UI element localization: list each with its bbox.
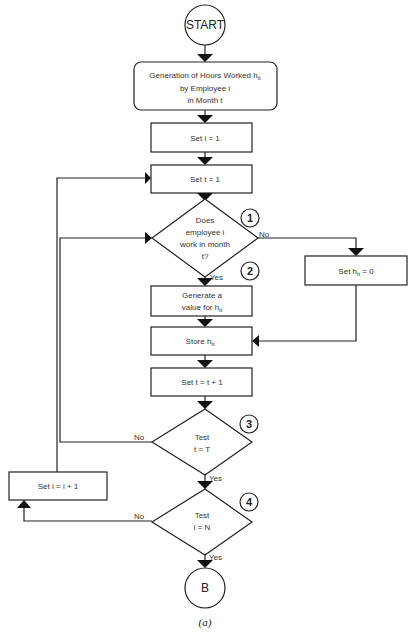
step-4-badge: 4 bbox=[240, 493, 258, 511]
set-t-box: Set t = 1 bbox=[151, 165, 252, 193]
svg-text:employee i: employee i bbox=[186, 228, 225, 237]
arrow-down-icon bbox=[197, 360, 213, 368]
arrow-down-icon bbox=[197, 560, 213, 568]
arrow-down-icon bbox=[197, 481, 213, 489]
figure-caption: (a) bbox=[199, 616, 212, 629]
generate-value-box: Generate a value for hit bbox=[151, 286, 252, 316]
svg-text:4: 4 bbox=[246, 496, 253, 508]
no-branch-line bbox=[258, 238, 356, 252]
no-label: No bbox=[134, 433, 145, 442]
loop-i-line bbox=[57, 178, 147, 490]
arrow-down-icon bbox=[197, 278, 213, 286]
loop-t-line bbox=[60, 238, 152, 442]
svg-text:B: B bbox=[201, 581, 209, 595]
end-connector-b: B bbox=[185, 568, 225, 608]
increment-t-box: Set t = t + 1 bbox=[151, 368, 252, 396]
svg-text:3: 3 bbox=[246, 418, 252, 430]
start-node: START bbox=[185, 5, 225, 45]
generation-line1: Generation of Hours Worked h bbox=[149, 71, 257, 80]
arrow-down-icon bbox=[197, 54, 213, 62]
svg-text:Set i = i + 1: Set i = i + 1 bbox=[38, 482, 79, 491]
arrow-up-icon bbox=[17, 500, 31, 508]
step-1-badge: 1 bbox=[241, 209, 259, 227]
arrow-down-icon bbox=[197, 319, 213, 327]
arrow-down-icon bbox=[348, 248, 364, 256]
decision-i-equals-N: Test i = N bbox=[152, 489, 252, 555]
merge-line bbox=[257, 285, 356, 341]
yes-label: Yes bbox=[210, 273, 223, 282]
svg-text:Set hit = 0: Set hit = 0 bbox=[338, 267, 374, 277]
store-h-box: Store hit bbox=[151, 327, 252, 355]
svg-text:t?: t? bbox=[202, 252, 209, 261]
step-3-badge: 3 bbox=[240, 415, 258, 433]
svg-text:Set i = 1: Set i = 1 bbox=[190, 134, 220, 143]
arrow-down-icon bbox=[197, 115, 213, 123]
flowchart: START Generation of Hours Worked hit by … bbox=[0, 0, 416, 637]
svg-text:t = T: t = T bbox=[194, 445, 210, 454]
no-branch-line bbox=[24, 505, 152, 521]
svg-text:Store hit: Store hit bbox=[186, 337, 215, 347]
arrow-right-icon bbox=[145, 172, 151, 184]
svg-text:Test: Test bbox=[195, 433, 210, 442]
svg-text:work in month: work in month bbox=[179, 240, 230, 249]
no-label: No bbox=[134, 512, 145, 521]
set-h-zero-box: Set hit = 0 bbox=[305, 256, 407, 285]
arrow-down-icon bbox=[197, 157, 213, 165]
start-label: START bbox=[186, 18, 225, 32]
decision-works-in-month: Does employee i work in month t? bbox=[152, 199, 258, 277]
arrow-left-icon bbox=[252, 335, 259, 347]
svg-text:Generation of Hours Worked hit: Generation of Hours Worked hit bbox=[149, 71, 261, 81]
svg-text:1: 1 bbox=[247, 212, 253, 224]
arrow-down-icon bbox=[197, 401, 213, 409]
arrow-right-icon bbox=[145, 232, 152, 244]
svg-text:2: 2 bbox=[247, 265, 253, 277]
svg-text:Does: Does bbox=[196, 216, 215, 225]
decision-t-equals-T: Test t = T bbox=[152, 409, 252, 475]
step-2-badge: 2 bbox=[241, 262, 259, 280]
svg-text:i = N: i = N bbox=[194, 523, 211, 532]
svg-text:Set t = t + 1: Set t = t + 1 bbox=[181, 378, 223, 387]
svg-text:Test: Test bbox=[195, 511, 210, 520]
generation-line3: in Month t bbox=[187, 96, 223, 105]
increment-i-box: Set i = i + 1 bbox=[9, 472, 107, 500]
generation-line2: by Employee i bbox=[180, 84, 230, 93]
set-i-box: Set i = 1 bbox=[151, 123, 252, 152]
svg-text:value for hit: value for hit bbox=[182, 303, 223, 313]
svg-text:Generate a: Generate a bbox=[182, 291, 223, 300]
generation-box: Generation of Hours Worked hit by Employ… bbox=[134, 62, 277, 110]
svg-text:Set t = 1: Set t = 1 bbox=[190, 175, 221, 184]
